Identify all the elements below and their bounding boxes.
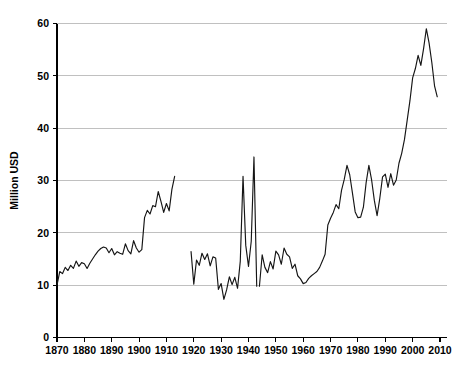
chart-container: 0102030405060 18701880189019001910192019… [0,0,460,374]
y-tick-label: 20 [37,227,49,239]
x-tick-label: 1920 [182,344,206,356]
y-tick-label: 50 [37,70,49,82]
x-tick-label: 1880 [73,344,97,356]
x-tick-label: 2010 [428,344,452,356]
line-chart: 0102030405060 18701880189019001910192019… [0,0,460,374]
x-tick-label: 1950 [264,344,288,356]
x-tick-label: 1960 [292,344,316,356]
x-tick-label: 1900 [127,344,151,356]
y-tick-label: 10 [37,279,49,291]
y-tick-label: 40 [37,122,49,134]
x-tick-label: 1890 [100,344,124,356]
x-tick-label: 1980 [346,344,370,356]
x-tick-label: 1870 [45,344,69,356]
x-tick-label: 1910 [155,344,179,356]
y-axis-label: Million USD [8,151,20,210]
x-tick-label: 1970 [319,344,343,356]
y-tick-label: 60 [37,17,49,29]
x-tick-label: 2000 [401,344,425,356]
x-tick-label: 1940 [237,344,261,356]
y-tick-label: 0 [43,331,49,343]
x-tick-label: 1930 [209,344,233,356]
chart-background [0,0,460,374]
y-tick-label: 30 [37,174,49,186]
x-tick-label: 1990 [374,344,398,356]
